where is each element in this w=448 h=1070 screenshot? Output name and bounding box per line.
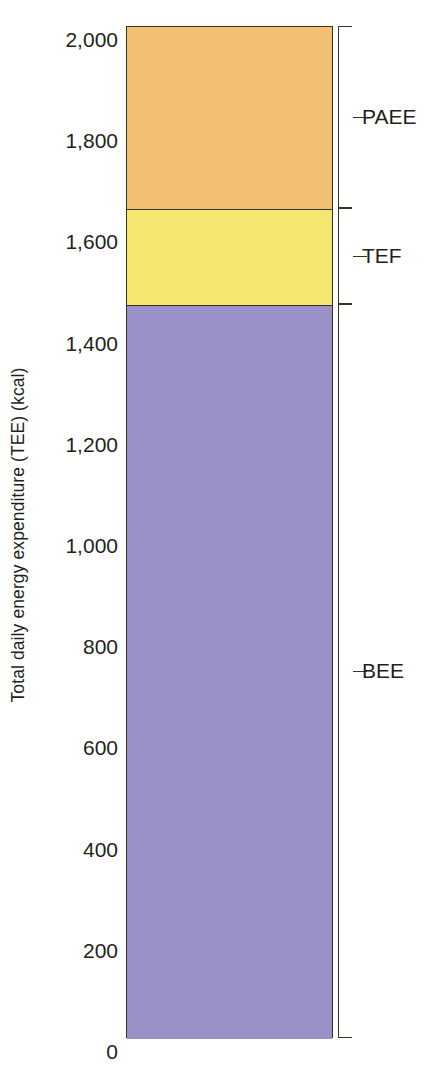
- stacked-bar-chart-figure: Total daily energy expenditure (TEE) (kc…: [0, 0, 448, 1070]
- y-tick-label: 400: [32, 838, 118, 862]
- paper-grain-texture: [127, 306, 332, 1039]
- y-tick-label: 1,200: [32, 433, 118, 457]
- bracket-paee: [338, 26, 352, 208]
- bar-segment-paee[interactable]: [127, 27, 332, 209]
- bracket-tef: [338, 208, 352, 304]
- bracket-bee: [338, 304, 352, 1038]
- bracket-label-paee: PAEE: [362, 105, 416, 129]
- paper-grain-texture: [127, 210, 332, 305]
- bracket-label-bee: BEE: [362, 659, 404, 683]
- y-tick-label: 1,800: [32, 129, 118, 153]
- y-tick-label: 1,400: [32, 332, 118, 356]
- y-tick-label: 0: [32, 1040, 118, 1064]
- stacked-bar: [126, 26, 333, 1038]
- paper-grain-texture: [127, 27, 332, 209]
- y-tick-label: 1,600: [32, 230, 118, 254]
- y-axis-tick-labels: 2,0001,8001,6001,4001,2001,0008006004002…: [32, 0, 118, 1070]
- y-tick-label: 800: [32, 635, 118, 659]
- y-axis-title: Total daily energy expenditure (TEE) (kc…: [0, 0, 36, 1070]
- y-tick-label: 600: [32, 736, 118, 760]
- y-tick-label: 200: [32, 939, 118, 963]
- bracket-label-tef: TEF: [362, 244, 402, 268]
- bar-segment-tef[interactable]: [127, 209, 332, 305]
- y-tick-label: 1,000: [32, 534, 118, 558]
- bar-segment-bee[interactable]: [127, 305, 332, 1039]
- y-tick-label: 2,000: [32, 28, 118, 52]
